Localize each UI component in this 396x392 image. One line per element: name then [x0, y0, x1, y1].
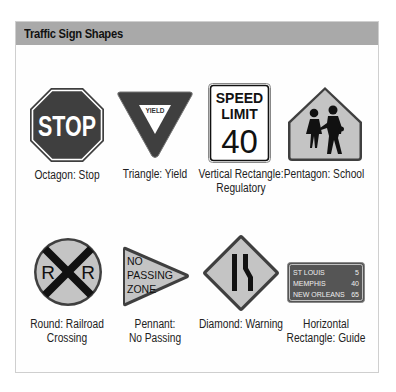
caption-vertical-rectangle-line1: Vertical Rectangle:: [197, 167, 285, 181]
figure-title: Traffic Sign Shapes: [24, 26, 123, 41]
warning-sign-diamond-icon: [202, 234, 280, 312]
guide-row1-destination: ST LOUIS: [293, 269, 325, 276]
caption-round-line2: Crossing: [25, 331, 110, 345]
caption-octagon: Octagon: Stop: [25, 168, 110, 182]
caption-horizontal-rectangle-line2: Rectangle: Guide: [284, 331, 369, 345]
caption-vertical-rectangle-line2: Regulatory: [197, 181, 285, 195]
stop-sign-octagon-icon: STOP: [29, 87, 105, 163]
railroad-crossing-sign-icon: R R: [33, 237, 103, 307]
guide-row3-destination: NEW ORLEANS: [293, 291, 345, 298]
pennant-legend-line1: NO: [127, 255, 143, 267]
speed-legend-line1: SPEED: [216, 90, 263, 106]
speed-limit-sign-icon: SPEED LIMIT 40: [208, 83, 271, 163]
railroad-legend-left: R: [41, 262, 55, 283]
caption-round-line1: Round: Railroad: [25, 317, 110, 331]
guide-row1-distance: 5: [355, 269, 359, 276]
pennant-legend-line3: ZONE: [127, 283, 156, 295]
caption-pentagon: Pentagon: School: [282, 167, 367, 181]
header-bar: Traffic Sign Shapes: [16, 22, 378, 45]
guide-row2-distance: 40: [351, 280, 359, 287]
speed-legend-line2: LIMIT: [221, 106, 258, 122]
caption-pennant-line1: Pennant:: [113, 317, 198, 331]
guide-sign-horizontal-rectangle-icon: ST LOUIS 5 MEMPHIS 40 NEW ORLEANS 65: [287, 262, 365, 303]
caption-pennant-line2: No Passing: [113, 331, 198, 345]
caption-horizontal-rectangle-line1: Horizontal: [284, 317, 369, 331]
guide-row2-destination: MEMPHIS: [293, 280, 326, 287]
speed-legend-value: 40: [221, 123, 258, 160]
stop-legend: STOP: [38, 110, 96, 142]
yield-legend: YIELD: [145, 107, 164, 114]
pennant-legend-line2: PASSING: [127, 269, 173, 281]
guide-row3-distance: 65: [351, 291, 359, 298]
caption-diamond: Diamond: Warning: [199, 317, 284, 331]
school-sign-pentagon-icon: [286, 86, 364, 162]
no-passing-sign-pennant-icon: NO PASSING ZONE: [121, 246, 191, 308]
caption-triangle: Triangle: Yield: [113, 167, 198, 181]
yield-sign-triangle-icon: YIELD: [116, 91, 194, 159]
railroad-legend-right: R: [81, 262, 95, 283]
